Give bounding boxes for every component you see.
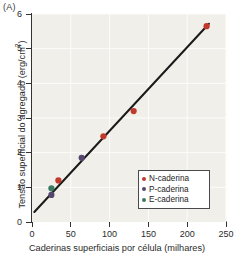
y-tick-label: 2 — [4, 148, 22, 157]
x-tick-mark — [187, 222, 188, 227]
x-tick-label: 250 — [211, 229, 234, 239]
y-tick-label: 3 — [4, 114, 22, 123]
y-tick-label: 6 — [4, 10, 22, 19]
legend-item[interactable]: E-caderina — [142, 195, 206, 205]
x-tick-label: 50 — [56, 229, 86, 239]
x-tick-mark — [148, 222, 149, 227]
y-tick-label: 0 — [4, 218, 22, 227]
x-tick-label: 200 — [172, 229, 202, 239]
legend-label: P-caderina — [149, 185, 189, 194]
x-tick-mark — [70, 222, 71, 227]
x-tick-mark — [32, 222, 33, 227]
y-tick-mark — [26, 187, 32, 188]
y-axis-title: Tensão superficial do agregado (erg/cm2) — [13, 27, 26, 223]
y-tick-label: 4 — [4, 79, 22, 88]
legend-marker-icon — [142, 187, 146, 191]
legend: N-caderinaP-caderinaE-caderina — [138, 170, 210, 209]
y-tick-mark — [26, 152, 32, 153]
y-tick-label: 5 — [4, 44, 22, 53]
x-tick-mark — [109, 222, 110, 227]
legend-item[interactable]: N-caderina — [142, 174, 206, 184]
y-tick-mark — [26, 14, 32, 15]
x-tick-label: 0 — [17, 229, 47, 239]
x-tick-mark — [226, 222, 227, 227]
x-axis-title: Caderinas superficiais por célula (milha… — [0, 243, 234, 254]
y-tick-mark — [26, 118, 32, 119]
x-tick-label: 100 — [95, 229, 125, 239]
legend-marker-icon — [142, 177, 146, 181]
x-tick-label: 150 — [133, 229, 163, 239]
y-tick-mark — [26, 48, 32, 49]
y-tick-mark — [26, 83, 32, 84]
legend-item[interactable]: P-caderina — [142, 184, 206, 194]
figure-panel-a: (A) Tensão superficial do agregado (erg/… — [0, 0, 234, 260]
legend-marker-icon — [142, 198, 146, 202]
legend-label: N-caderina — [149, 174, 189, 183]
y-tick-label: 1 — [4, 183, 22, 192]
legend-label: E-caderina — [149, 195, 189, 204]
